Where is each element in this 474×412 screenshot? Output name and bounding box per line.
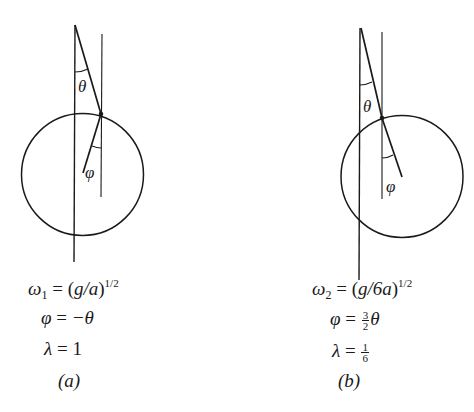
omega-body: g/6a [358, 278, 392, 299]
panel-b-long-vertical-line [359, 28, 360, 280]
panel-a-disc [22, 114, 144, 236]
panel-b-pivot-dot [380, 116, 383, 119]
panel-b-theta-arc [360, 82, 372, 85]
panel-a-phi-label: φ [85, 163, 94, 182]
phi-rhs: θ [370, 308, 379, 329]
phi-eq: = [341, 308, 361, 329]
phi-fraction: 32 [362, 310, 370, 331]
panel-b-phi-equation: φ = 32θ [330, 309, 380, 331]
phi-lhs: φ [41, 307, 52, 328]
panel-b-theta-label: θ [363, 97, 371, 116]
panel-b-phi-label: φ [386, 177, 395, 196]
omega-symbol: ω [312, 278, 325, 299]
lambda-rhs: 1 [72, 338, 82, 359]
lambda-fraction: 16 [361, 342, 369, 363]
panel-a-caption: (a) [58, 371, 80, 390]
panel-a-theta-label: θ [78, 77, 86, 96]
omega-symbol: ω [28, 278, 41, 299]
omega-eq: = ( [47, 278, 74, 299]
omega-body: g/a [74, 278, 98, 299]
lambda-eq: = [340, 340, 360, 361]
lambda-lhs: λ [44, 338, 52, 359]
lambda-lhs: λ [332, 340, 340, 361]
panel-a-drawing [22, 25, 144, 262]
panel-a-phi-arc [92, 146, 101, 148]
panel-a-pivot-dot [99, 112, 102, 115]
panel-a-lambda-equation: λ = 1 [44, 339, 82, 358]
omega-eq: = ( [331, 278, 358, 299]
panel-a-phi-equation: φ = −θ [41, 308, 94, 327]
omega-exponent: 1/2 [105, 277, 119, 289]
panel-b-omega-equation: ω2 = (g/6a)1/2 [312, 278, 412, 301]
panel-b-lambda-equation: λ = 16 [332, 341, 370, 363]
panel-b-phi-arc [382, 155, 393, 158]
panel-b-caption: (b) [338, 371, 360, 390]
panel-b-lower-rod [382, 118, 402, 177]
phi-eq: = [52, 307, 72, 328]
phi-rhs: −θ [72, 307, 94, 328]
phi-lhs: φ [330, 308, 341, 329]
panel-a-omega-equation: ω1 = (g/a)1/2 [28, 278, 119, 301]
panel-b-drawing [341, 28, 463, 280]
omega-exponent: 1/2 [398, 277, 412, 289]
lambda-eq: = [52, 338, 72, 359]
phi-frac-denominator: 2 [362, 321, 370, 331]
panel-a-theta-arc [75, 69, 88, 72]
panel-a-long-vertical-line [74, 25, 75, 262]
lambda-frac-denominator: 6 [361, 353, 369, 363]
